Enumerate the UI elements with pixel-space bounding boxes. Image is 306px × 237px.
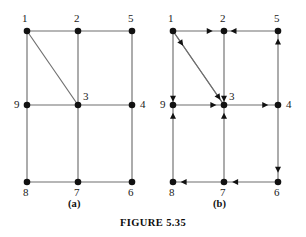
figure-container: 125934876 125934876 (a) (b) FIGURE 5.35: [0, 0, 306, 237]
graph-node-8: [24, 179, 31, 186]
graph-node-2: [221, 28, 228, 35]
arrowhead-icon: [170, 96, 176, 102]
graph-node-3: [75, 102, 82, 109]
graph-node-6: [129, 179, 136, 186]
graph-node-5: [129, 28, 136, 35]
graph-node-9: [24, 102, 31, 109]
arrowhead-icon: [181, 179, 187, 185]
graph-node-9: [170, 102, 177, 109]
graph-node-5: [275, 28, 282, 35]
graph-node-8: [170, 179, 177, 186]
arrowhead-icon: [262, 102, 268, 108]
graph-node-label-8: 8: [169, 186, 175, 198]
graph-node-label-7: 7: [74, 186, 80, 198]
arrowhead-icon: [207, 28, 213, 34]
graph-node-label-3: 3: [229, 90, 235, 102]
graph-node-label-8: 8: [23, 186, 29, 198]
graph-node-1: [24, 28, 31, 35]
graph-node-label-1: 1: [22, 12, 28, 24]
panel-b-label: (b): [213, 198, 226, 209]
graph-node-label-2: 2: [74, 12, 80, 24]
arrowhead-icon: [221, 96, 227, 102]
graph-edge: [27, 31, 78, 105]
arrowhead-icon: [230, 28, 236, 34]
graph-node-label-7: 7: [220, 186, 226, 198]
panel-a-label: (a): [68, 198, 81, 209]
graph-node-7: [221, 179, 228, 186]
graph-node-4: [275, 102, 282, 109]
graph-node-label-4: 4: [286, 98, 292, 110]
graph-node-label-3: 3: [83, 90, 89, 102]
arrowhead-icon: [232, 179, 238, 185]
arrowhead-icon: [275, 38, 281, 44]
arrowhead-icon: [221, 113, 227, 119]
graph-node-7: [75, 179, 82, 186]
graph-node-6: [275, 179, 282, 186]
arrowhead-icon: [170, 113, 176, 119]
graph-panel-b: 125934876: [146, 0, 306, 200]
graph-node-label-5: 5: [274, 12, 280, 24]
graph-node-label-9: 9: [14, 98, 20, 110]
arrowhead-icon: [177, 39, 183, 46]
graph-node-label-6: 6: [128, 186, 134, 198]
graph-node-label-5: 5: [128, 12, 134, 24]
graph-node-2: [75, 28, 82, 35]
figure-caption: FIGURE 5.35: [0, 217, 306, 228]
graph-node-label-9: 9: [160, 98, 166, 110]
graph-node-4: [129, 102, 136, 109]
arrowhead-icon: [275, 167, 281, 173]
graph-node-3: [221, 102, 228, 109]
graph-node-label-6: 6: [274, 186, 280, 198]
arrowhead-icon: [210, 102, 216, 108]
graph-node-label-1: 1: [168, 12, 174, 24]
arrowhead-icon: [215, 93, 221, 100]
graph-panel-a: 125934876: [0, 0, 160, 200]
graph-node-1: [170, 28, 177, 35]
graph-node-label-2: 2: [220, 12, 226, 24]
